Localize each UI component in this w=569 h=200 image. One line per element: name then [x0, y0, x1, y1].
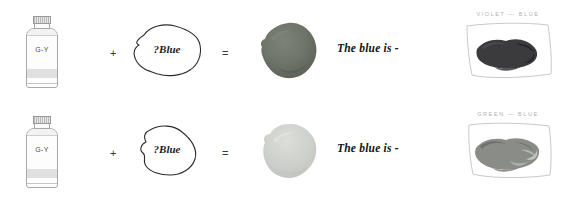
worksheet-sheet: G-Y + ?Blue = [0, 0, 569, 200]
equation-row-violet-blue: G-Y + ?Blue = [0, 0, 569, 100]
tube-color-band [27, 169, 57, 178]
tube-crimp [27, 83, 57, 87]
tube-body: G-Y [26, 128, 58, 188]
paint-tube: G-Y [26, 116, 58, 188]
tube-label: G-Y [27, 146, 57, 153]
swatch-title: GREEN — BLUE [458, 111, 558, 117]
dark-mixed-splotch [258, 20, 320, 82]
tube-shoulder [27, 129, 57, 136]
unknown-blue-blob: ?Blue [128, 22, 206, 78]
tube-color-band [27, 69, 57, 78]
tube-cap-icon [33, 16, 51, 24]
caption-text: The blue is - [337, 142, 399, 154]
color-swatch-card: VIOLET — BLUE [458, 8, 558, 86]
equation-row-green-blue: G-Y + ?Blue = [0, 100, 569, 200]
unknown-blue-label: ?Blue [128, 43, 206, 55]
plus-operator: + [110, 48, 116, 59]
caption-text: The blue is - [337, 42, 399, 54]
paint-tube: G-Y [26, 16, 58, 88]
tube-body: G-Y [26, 28, 58, 88]
swatch-frame [458, 120, 558, 184]
tube-crimp [27, 183, 57, 187]
equals-operator: = [222, 148, 228, 159]
light-mixed-splotch [258, 120, 320, 182]
unknown-blue-blob: ?Blue [128, 122, 206, 178]
swatch-frame [458, 20, 558, 84]
tube-shoulder [27, 29, 57, 36]
plus-operator: + [110, 148, 116, 159]
color-swatch-card: GREEN — BLUE [458, 108, 558, 186]
tube-cap-icon [33, 116, 51, 124]
swatch-title: VIOLET — BLUE [458, 11, 558, 17]
tube-label: G-Y [27, 46, 57, 53]
unknown-blue-label: ?Blue [128, 143, 206, 155]
equals-operator: = [222, 48, 228, 59]
